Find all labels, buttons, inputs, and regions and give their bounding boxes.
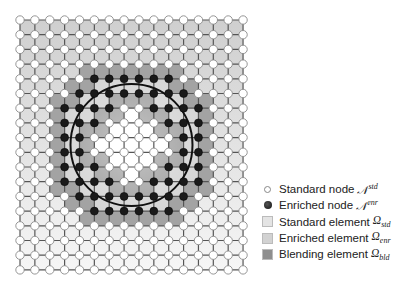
enriched-node	[165, 90, 173, 98]
standard-node	[135, 148, 143, 156]
enriched-node	[135, 90, 143, 98]
standard-node	[120, 251, 128, 259]
enriched-node	[180, 104, 188, 112]
standard-node	[239, 251, 247, 259]
standard-node	[90, 148, 98, 156]
standard-node	[209, 119, 217, 127]
standard-node	[75, 266, 83, 274]
enriched-node	[75, 90, 83, 98]
standard-node	[90, 236, 98, 244]
standard-node	[224, 148, 232, 156]
standard-node	[75, 251, 83, 259]
standard-node	[105, 163, 113, 171]
standard-node	[16, 251, 24, 259]
standard-node	[150, 266, 158, 274]
legend-item-blending-element: Blending element Ωbld	[262, 246, 391, 262]
standard-node	[31, 133, 39, 141]
standard-node	[46, 148, 54, 156]
standard-node	[239, 207, 247, 215]
standard-node	[16, 192, 24, 200]
legend-math: 𝒩std	[357, 182, 377, 197]
standard-node	[31, 45, 39, 53]
standard-node	[16, 178, 24, 186]
standard-node	[239, 133, 247, 141]
standard-node	[31, 148, 39, 156]
standard-node	[31, 31, 39, 39]
standard-node	[31, 60, 39, 68]
enriched-node	[75, 163, 83, 171]
standard-node	[150, 45, 158, 53]
enriched-node	[165, 192, 173, 200]
enriched-node	[61, 148, 69, 156]
enriched-node	[150, 192, 158, 200]
standard-node	[105, 16, 113, 24]
standard-node	[224, 16, 232, 24]
standard-node	[239, 119, 247, 127]
standard-node	[209, 133, 217, 141]
enriched-node	[75, 178, 83, 186]
standard-node	[31, 16, 39, 24]
standard-node	[75, 207, 83, 215]
enriched-node	[150, 90, 158, 98]
legend-math: Ωenr	[372, 230, 391, 245]
standard-node	[105, 222, 113, 230]
standard-node	[46, 119, 54, 127]
standard-node	[135, 133, 143, 141]
standard-node	[135, 60, 143, 68]
enriched-node	[135, 207, 143, 215]
standard-node	[31, 266, 39, 274]
standard-node	[239, 104, 247, 112]
standard-node	[90, 60, 98, 68]
standard-node	[46, 133, 54, 141]
standard-node	[135, 45, 143, 53]
enriched-node	[75, 119, 83, 127]
standard-node	[105, 236, 113, 244]
standard-node	[46, 16, 54, 24]
legend-item-enriched-node: Enriched node 𝒩enr	[262, 197, 391, 213]
standard-node	[16, 31, 24, 39]
enriched-node	[194, 119, 202, 127]
standard-node	[194, 251, 202, 259]
standard-node	[224, 60, 232, 68]
standard-node	[239, 45, 247, 53]
standard-node	[135, 236, 143, 244]
standard-node	[194, 16, 202, 24]
standard-node	[90, 222, 98, 230]
enriched-node	[194, 134, 202, 142]
standard-node	[16, 104, 24, 112]
standard-node	[46, 89, 54, 97]
standard-node	[209, 60, 217, 68]
standard-node	[46, 163, 54, 171]
standard-node	[224, 89, 232, 97]
standard-node	[165, 266, 173, 274]
enriched-node	[61, 134, 69, 142]
legend-label: Standard element	[279, 216, 370, 228]
enriched-node	[180, 148, 188, 156]
standard-node	[75, 31, 83, 39]
standard-node	[105, 266, 113, 274]
standard-node	[31, 192, 39, 200]
standard-node	[194, 75, 202, 83]
enriched-node	[90, 75, 98, 83]
standard-node	[31, 104, 39, 112]
enriched-node	[90, 119, 98, 127]
standard-node	[150, 119, 158, 127]
standard-node	[239, 192, 247, 200]
standard-node	[179, 16, 187, 24]
standard-node	[209, 45, 217, 53]
standard-element-swatch-icon	[262, 216, 273, 227]
standard-node	[239, 222, 247, 230]
enriched-node	[120, 75, 128, 83]
standard-node	[209, 251, 217, 259]
standard-node	[31, 119, 39, 127]
enriched-node	[105, 90, 113, 98]
enriched-node	[150, 104, 158, 112]
standard-node	[60, 266, 68, 274]
enriched-node	[120, 192, 128, 200]
standard-node	[16, 133, 24, 141]
standard-node	[224, 45, 232, 53]
standard-node	[120, 60, 128, 68]
standard-node	[179, 207, 187, 215]
standard-node	[75, 75, 83, 83]
standard-node	[46, 75, 54, 83]
